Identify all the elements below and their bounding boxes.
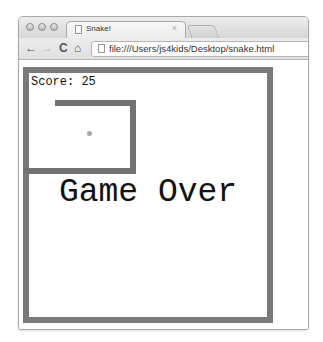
snake-segment-right	[130, 100, 136, 174]
apple	[87, 131, 92, 136]
tab-bar: Snake! ×	[19, 17, 308, 38]
address-bar[interactable]: file:///Users/js4kids/Desktop/snake.html	[91, 41, 309, 57]
toolbar: ← → C ⌂ file:///Users/js4kids/Desktop/sn…	[19, 38, 308, 60]
reload-icon[interactable]: C	[59, 41, 68, 55]
close-window-button[interactable]	[26, 23, 34, 31]
game-over-text: Game Over	[23, 174, 273, 211]
new-tab-button[interactable]	[187, 25, 220, 38]
score-text: Score: 25	[31, 75, 96, 89]
tab-snake[interactable]: Snake! ×	[66, 21, 186, 38]
browser-window: Snake! × ← → C ⌂ file:///Users/js4kids/D…	[18, 16, 309, 330]
home-icon[interactable]: ⌂	[74, 41, 81, 55]
game-canvas[interactable]: Score: 25 Game Over	[23, 67, 273, 323]
tab-title: Snake!	[86, 24, 111, 33]
url-text: file:///Users/js4kids/Desktop/snake.html	[109, 43, 274, 54]
page-icon	[98, 44, 105, 53]
page-content: Score: 25 Game Over	[19, 60, 308, 329]
wall-bottom	[23, 317, 273, 323]
minimize-window-button[interactable]	[38, 23, 46, 31]
page-icon	[75, 25, 82, 34]
snake-segment-top	[55, 100, 136, 106]
wall-top	[23, 67, 273, 73]
forward-arrow-icon[interactable]: →	[41, 41, 53, 55]
close-tab-icon[interactable]: ×	[172, 23, 177, 33]
zoom-window-button[interactable]	[50, 23, 58, 31]
back-arrow-icon[interactable]: ←	[25, 41, 37, 55]
